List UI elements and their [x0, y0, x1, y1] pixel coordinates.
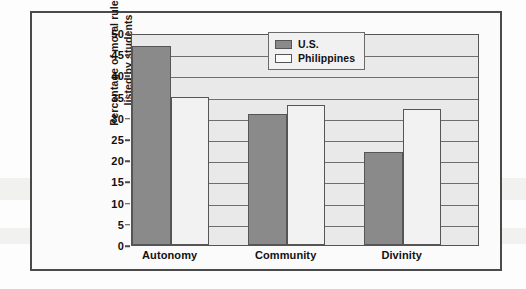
y-axis-tick-mark [125, 245, 130, 247]
y-axis-tick-mark [125, 203, 130, 205]
y-axis-tick-mark [125, 97, 130, 99]
legend-label-us: U.S. [298, 38, 319, 50]
y-axis-tick-mark [125, 139, 130, 141]
y-axis-tick-label: 45 [111, 49, 124, 61]
y-axis-tick-label: 0 [118, 240, 124, 252]
y-axis-tick-label: 50 [111, 28, 124, 40]
chart-legend: U.S. Philippines [268, 32, 365, 70]
x-axis-category-labels: AutonomyCommunityDivinity [131, 249, 479, 269]
y-axis-ticks: 05101520253035404550 [96, 34, 130, 246]
y-axis-tick-mark [125, 54, 130, 56]
y-axis-tick-mark [125, 160, 130, 162]
x-axis-label-autonomy: Autonomy [142, 249, 197, 261]
y-axis-tick-mark [125, 76, 130, 78]
bar-community-us [248, 114, 287, 245]
x-axis-label-divinity: Divinity [381, 249, 422, 261]
bar-community-philippines [287, 105, 326, 245]
y-axis-tick-mark [125, 118, 130, 120]
legend-swatch-philippines [275, 54, 292, 63]
legend-item-us: U.S. [275, 37, 355, 51]
y-axis-tick-label: 40 [111, 70, 124, 82]
gridline [132, 77, 478, 78]
y-axis-tick-label: 25 [111, 134, 124, 146]
legend-item-philippines: Philippines [275, 51, 355, 65]
legend-swatch-us [275, 40, 292, 49]
y-axis-tick-label: 35 [111, 92, 124, 104]
bar-autonomy-philippines [171, 97, 210, 245]
y-axis-tick-label: 15 [111, 176, 124, 188]
y-axis-tick-mark [125, 33, 130, 35]
y-axis-tick-mark [125, 182, 130, 184]
bar-autonomy-us [132, 46, 171, 245]
bar-divinity-us [364, 152, 403, 245]
figure-frame: Percentage of moral rules listed by stud… [30, 11, 502, 271]
y-axis-tick-label: 5 [118, 219, 124, 231]
y-axis-tick-label: 10 [111, 198, 124, 210]
y-axis-tick-mark [125, 224, 130, 226]
y-axis-tick-label: 20 [111, 155, 124, 167]
y-axis-tick-label: 30 [111, 113, 124, 125]
legend-label-philippines: Philippines [298, 52, 355, 64]
x-axis-label-community: Community [255, 249, 316, 261]
bar-divinity-philippines [403, 109, 442, 245]
